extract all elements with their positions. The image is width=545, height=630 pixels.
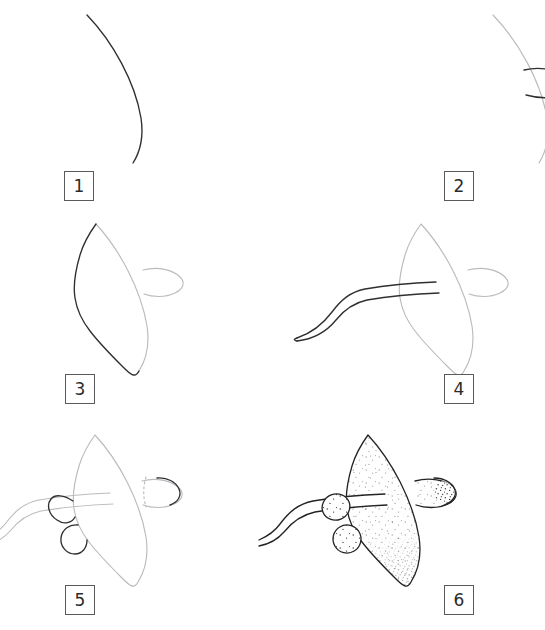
step-badge-6: 6 [444, 585, 474, 615]
step-number-6: 6 [454, 592, 465, 609]
step-panel-1 [0, 0, 272, 210]
pelvic-fin-upper [49, 496, 75, 523]
snout-seam [144, 477, 146, 507]
pelvic-fin-lower [330, 522, 364, 556]
wing-tip-hook-guide [142, 479, 182, 507]
step-panel-2 [273, 0, 545, 210]
tail-tip-close [294, 338, 297, 341]
tail-guide-lower [0, 504, 113, 545]
front-edge-curve-guide [96, 224, 148, 371]
step-badge-2: 2 [444, 171, 474, 201]
step-badge-3: 3 [65, 374, 95, 404]
step-1-drawing [0, 0, 272, 210]
step-badge-4: 4 [444, 374, 474, 404]
inked-wing-tip-hook [415, 479, 456, 507]
tail-lower-edge [259, 505, 387, 546]
body-fill [346, 435, 420, 586]
step-3-drawing [0, 210, 272, 415]
tail-upper-edge [259, 494, 385, 540]
stipple-shading [273, 415, 545, 630]
disc-outline-guide [73, 435, 147, 586]
inked-disc-outline [346, 435, 420, 586]
front-edge-curve [87, 15, 142, 163]
pelvic-fin-lower [61, 525, 87, 554]
snout-tip [157, 478, 180, 505]
step-badge-1: 1 [64, 171, 94, 201]
rear-body-outline [74, 224, 139, 375]
tail-guide [0, 493, 110, 539]
step-panel-3 [0, 210, 272, 415]
pelvic-fin-upper-fill [318, 490, 354, 525]
tutorial-sheet: 1 2 3 [0, 0, 545, 630]
disc-outline-guide [399, 224, 473, 375]
tail-fill [259, 494, 387, 546]
step-panel-5 [0, 415, 272, 630]
step-5-drawing [0, 415, 272, 630]
tail-upper-edge [297, 282, 436, 338]
step-badge-5: 5 [65, 585, 95, 615]
step-panel-4 [273, 210, 545, 415]
step-6-drawing [273, 415, 545, 630]
tail-lower-edge [297, 293, 439, 341]
step-4-drawing [273, 210, 545, 415]
step-2-drawing [273, 0, 545, 210]
inked-snout-tip [434, 478, 455, 506]
wing-tip-hook-guide [143, 268, 183, 296]
step-panel-6 [273, 415, 545, 630]
pelvic-fin-upper [318, 490, 354, 525]
step-number-1: 1 [74, 178, 85, 195]
front-edge-curve-guide [493, 15, 545, 163]
step-number-4: 4 [454, 381, 465, 398]
pelvic-fin-lower-fill [330, 522, 364, 556]
wing-tip-hook-guide [468, 268, 508, 296]
step-number-5: 5 [75, 592, 86, 609]
step-number-2: 2 [454, 178, 465, 195]
step-number-3: 3 [75, 381, 86, 398]
wing-tip-hook [524, 68, 545, 97]
